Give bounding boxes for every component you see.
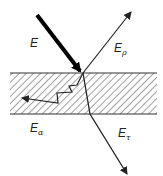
reflected-label: E ρ (114, 41, 127, 57)
reflected-label-sub: ρ (121, 48, 127, 57)
absorbed-label: E α (30, 121, 44, 137)
absorbed-label-sub: α (38, 128, 44, 137)
incident-ray-arrow (37, 15, 80, 71)
incident-label: E (30, 36, 39, 50)
energy-diagram: E E ρ E τ E α (0, 0, 163, 176)
reflected-ray-arrow (83, 12, 131, 73)
transmitted-label: E τ (118, 126, 131, 142)
transmitted-label-sub: τ (126, 133, 131, 142)
